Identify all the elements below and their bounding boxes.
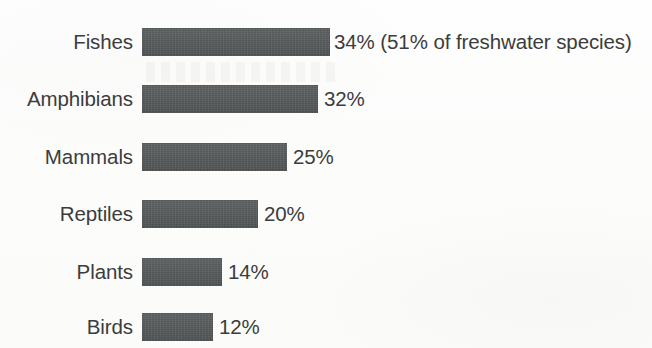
value-label-reptiles: 20% (264, 204, 305, 225)
category-label: Amphibians (27, 89, 133, 110)
value-label-plants: 14% (228, 262, 269, 283)
value-label-birds: 12% (219, 317, 260, 338)
bar-row: Mammals 25% (0, 143, 652, 171)
bar-mammals (142, 143, 287, 171)
category-label: Fishes (73, 32, 133, 53)
bar-container (142, 28, 330, 56)
bar-container (142, 85, 318, 113)
bar-plants (142, 258, 222, 286)
bar-amphibians (142, 85, 318, 113)
value-label-fishes: 34% (51% of freshwater species) (334, 32, 632, 53)
bar-container (142, 200, 258, 228)
bar-row: Fishes 34% (51% of freshwater species) (0, 28, 652, 56)
annotation-text: (51% of freshwater species) (380, 30, 631, 53)
scan-bleed-artifact (146, 62, 336, 82)
bar-row: Reptiles 20% (0, 200, 652, 228)
category-label: Plants (77, 262, 133, 283)
category-label: Reptiles (60, 204, 133, 225)
value-text: 34% (334, 30, 375, 53)
bar-birds (142, 313, 213, 341)
category-label: Mammals (45, 147, 133, 168)
bar-row: Birds 12% (0, 313, 652, 341)
bar-container (142, 313, 213, 341)
bar-row: Plants 14% (0, 258, 652, 286)
bar-row: Amphibians 32% (0, 85, 652, 113)
category-label: Birds (87, 317, 133, 338)
value-label-amphibians: 32% (324, 89, 365, 110)
bar-container (142, 258, 222, 286)
bar-container (142, 143, 287, 171)
bar-reptiles (142, 200, 258, 228)
value-label-mammals: 25% (293, 147, 334, 168)
bar-fishes (142, 28, 330, 56)
horizontal-bar-chart: Fishes 34% (51% of freshwater species) A… (0, 0, 652, 348)
